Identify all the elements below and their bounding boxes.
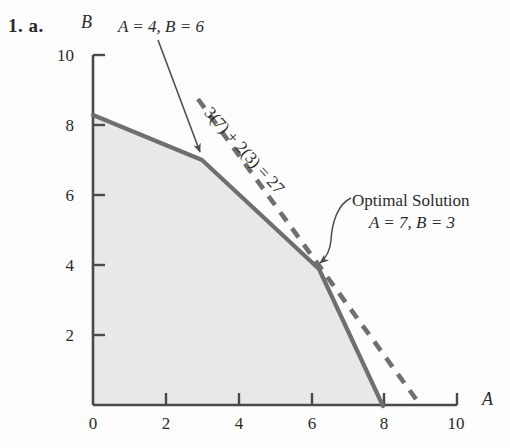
y-tick-label-6: 6 [44, 187, 74, 204]
optimal-solution-leader-arrow [320, 198, 351, 263]
x-tick-label-6: 6 [297, 415, 327, 432]
optimal-solution-values: A = 7, B = 3 [369, 214, 455, 231]
x-axis-name: A [482, 390, 493, 408]
x-tick-label-10: 10 [441, 415, 471, 432]
y-tick-label-4: 4 [44, 257, 74, 274]
problem-number-label: 1. a. [8, 16, 44, 35]
x-tick-label-4: 4 [224, 415, 254, 432]
x-tick-label-2: 2 [151, 415, 181, 432]
extreme-point-annotation: A = 4, B = 6 [118, 18, 204, 35]
x-tick-label-8: 8 [369, 415, 399, 432]
y-axis-name: B [81, 13, 92, 31]
extreme-point-leader-arrow [158, 40, 200, 152]
y-tick-label-2: 2 [44, 327, 74, 344]
optimal-solution-title: Optimal Solution [352, 192, 470, 209]
figure-page: 1. a. B A 10 8 6 4 2 0 2 4 6 8 10 A = 4,… [0, 0, 510, 448]
y-tick-label-10: 10 [44, 47, 74, 64]
y-tick-label-8: 8 [44, 117, 74, 134]
x-tick-label-0: 0 [78, 415, 108, 432]
